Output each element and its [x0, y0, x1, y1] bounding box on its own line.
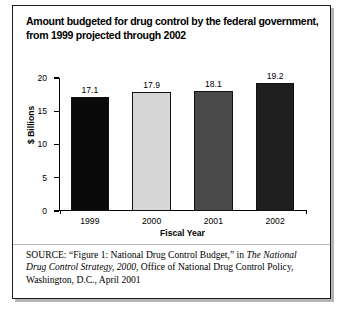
bar-value-label-2001: 18.1 — [194, 79, 232, 89]
source-note: SOURCE: “Figure 1: National Drug Control… — [26, 249, 318, 286]
bar-2001 — [194, 91, 232, 211]
y-tick-label-10: 10 — [37, 139, 47, 149]
plot-area: 05101520 17.1199917.9200018.1200119.2200… — [59, 78, 306, 211]
y-tick-5: 5 — [54, 177, 59, 178]
y-tick-label-0: 0 — [42, 206, 47, 216]
chart-title-line-2: from 1999 projected through 2002 — [26, 29, 299, 43]
bar-1999 — [71, 97, 109, 211]
chart-title: Amount budgeted for drug control by the … — [26, 15, 316, 42]
bar-group-2001: 18.12001 — [194, 78, 232, 211]
bar-group-2000: 17.92000 — [132, 78, 170, 211]
x-axis-start-tick — [60, 210, 61, 214]
x-tick-label-2000: 2000 — [118, 216, 184, 226]
bar-group-2002: 19.22002 — [256, 78, 294, 211]
bar-2000 — [132, 92, 170, 211]
y-tick-label-5: 5 — [42, 173, 47, 183]
y-tick-label-20: 20 — [37, 73, 47, 83]
y-tick-10: 10 — [54, 144, 59, 145]
y-tick-0: 0 — [54, 210, 59, 211]
x-tick-label-1999: 1999 — [57, 216, 123, 226]
source-text-part-1: “Figure 1: National Drug Control Budget,… — [69, 249, 246, 260]
bar-value-label-1999: 17.1 — [71, 85, 109, 95]
y-axis-title: $ Billions — [26, 106, 36, 144]
x-tick-label-2001: 2001 — [180, 216, 246, 226]
source-divider — [13, 244, 330, 245]
bar-value-label-2000: 17.9 — [132, 80, 170, 90]
y-tick-20: 20 — [54, 77, 59, 78]
x-axis-end-tick — [306, 210, 307, 214]
chart-title-line-1: Amount budgeted for drug control by the … — [26, 15, 299, 29]
figure-panel: Amount budgeted for drug control by the … — [12, 5, 331, 299]
bar-group-1999: 17.11999 — [71, 78, 109, 211]
bar-2002 — [256, 83, 294, 211]
y-tick-label-15: 15 — [37, 106, 47, 116]
x-tick-label-2002: 2002 — [242, 216, 308, 226]
y-tick-15: 15 — [54, 111, 59, 112]
x-axis-title: Fiscal Year — [59, 228, 306, 238]
source-label: SOURCE: — [26, 249, 67, 260]
bar-value-label-2002: 19.2 — [256, 71, 294, 81]
